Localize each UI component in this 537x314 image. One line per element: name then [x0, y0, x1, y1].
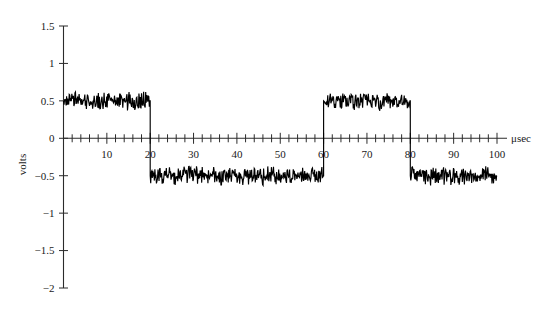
- chart-figure: 1.510.50−0.5−1−1.5−2 1020304050607080901…: [0, 0, 537, 314]
- y-tick-label: 0.5: [41, 95, 55, 107]
- signal-plot: 1.510.50−0.5−1−1.5−2 1020304050607080901…: [0, 0, 537, 314]
- y-tick-label: −1: [43, 207, 55, 219]
- y-axis-title: volts: [16, 154, 28, 175]
- x-tick-label: 100: [489, 148, 506, 160]
- x-tick-label: 10: [101, 148, 113, 160]
- y-tick-label: 1: [49, 57, 55, 69]
- x-tick-label: 70: [361, 148, 373, 160]
- x-tick-label: 40: [231, 148, 243, 160]
- x-axis-title: μsec: [511, 132, 531, 144]
- y-tick-label: 1.5: [41, 20, 55, 32]
- y-tick-label: −0.5: [35, 170, 55, 182]
- y-tick-label: −2: [43, 282, 55, 294]
- x-tick-label: 90: [448, 148, 460, 160]
- y-tick-label: 0: [49, 132, 55, 144]
- x-tick-label: 50: [275, 148, 287, 160]
- x-tick-label: 30: [188, 148, 200, 160]
- y-tick-label: −1.5: [35, 244, 55, 256]
